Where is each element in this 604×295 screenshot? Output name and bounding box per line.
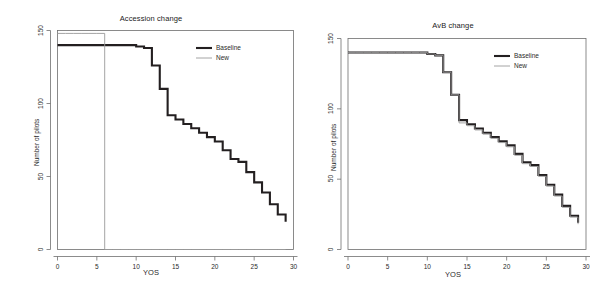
y-tick-label: 150	[36, 21, 43, 39]
y-tick-label: 0	[36, 240, 43, 258]
legend-label-baseline: Baseline	[514, 52, 539, 59]
x-tick-label: 25	[536, 263, 556, 270]
legend-label-new: New	[514, 62, 527, 69]
series-line-baseline	[348, 53, 578, 223]
series-line-baseline	[58, 45, 286, 222]
y-axis-title: Number of pilots	[330, 124, 337, 171]
panel-accession-change: Accession change 051015202530050100150YO…	[0, 0, 302, 295]
plot-area-left	[0, 0, 302, 295]
plot-frame	[348, 39, 586, 250]
y-tick-label: 0	[327, 240, 334, 258]
plot-area-right	[302, 0, 604, 295]
y-axis-title: Number of pilots	[33, 119, 40, 166]
y-tick-label: 50	[36, 167, 43, 185]
legend-label-baseline: Baseline	[216, 44, 241, 51]
y-tick-label: 50	[327, 170, 334, 188]
y-tick-label: 100	[36, 94, 43, 112]
y-tick-label: 150	[327, 29, 334, 47]
series-line-new	[348, 53, 578, 225]
plot-frame	[58, 31, 294, 250]
x-axis-title: YOS	[0, 268, 302, 277]
x-axis-title: YOS	[302, 270, 604, 279]
legend-label-new: New	[216, 54, 229, 61]
x-tick-label: 0	[338, 263, 358, 270]
x-tick-label: 20	[497, 263, 517, 270]
x-tick-label: 5	[378, 263, 398, 270]
series-line-new	[58, 33, 286, 249]
x-tick-label: 30	[576, 263, 596, 270]
x-tick-label: 10	[417, 263, 437, 270]
x-tick-label: 15	[457, 263, 477, 270]
y-tick-label: 100	[327, 99, 334, 117]
figure-container: Accession change 051015202530050100150YO…	[0, 0, 604, 295]
panel-avb-change: AvB change 051015202530050100150YOSNumbe…	[302, 0, 604, 295]
